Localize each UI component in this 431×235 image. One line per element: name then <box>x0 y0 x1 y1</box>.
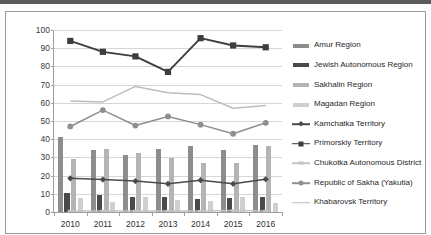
legend-item[interactable]: Khabarovsk Territory <box>292 193 426 213</box>
y-axis-tick-label: 70 <box>41 80 50 89</box>
data-line <box>70 86 265 108</box>
legend-swatch-icon <box>292 114 310 134</box>
plot-area <box>54 30 282 212</box>
y-axis-tick-label: 0 <box>45 208 50 217</box>
data-point-marker <box>67 124 73 130</box>
data-point-marker <box>230 131 236 137</box>
data-point-marker <box>132 53 138 59</box>
chart-legend: Amur RegionJewish Autonomous RegionSakha… <box>292 36 426 212</box>
y-axis-tick-label: 10 <box>41 190 50 199</box>
legend-item[interactable]: Primorskiy Territory <box>292 134 426 154</box>
data-point-marker <box>165 69 171 75</box>
data-point-marker <box>67 38 73 44</box>
legend-swatch-icon <box>292 75 310 95</box>
x-axis-tick-label: 2014 <box>191 220 210 229</box>
y-axis-tick-label: 50 <box>41 117 50 126</box>
y-axis-tick-mark <box>51 103 54 104</box>
data-point-marker <box>197 177 203 183</box>
data-point-marker <box>100 176 106 182</box>
legend-item[interactable]: Kamchatka Territory <box>292 114 426 134</box>
legend-swatch-icon <box>292 173 310 193</box>
legend-label: Primorskiy Territory <box>314 139 382 148</box>
data-point-marker <box>230 181 236 187</box>
y-axis-tick-label: 40 <box>41 135 50 144</box>
x-axis-tick-mark <box>152 212 153 216</box>
legend-swatch-icon <box>292 56 310 76</box>
y-axis-tick-label: 90 <box>41 44 50 53</box>
legend-swatch-icon <box>292 134 310 154</box>
x-axis-tick-mark <box>249 212 250 216</box>
y-axis-tick-label: 80 <box>41 62 50 71</box>
legend-swatch-icon <box>292 154 310 174</box>
data-point-marker <box>132 178 138 184</box>
x-axis-tick-mark <box>87 212 88 216</box>
data-point-marker <box>165 181 171 187</box>
y-axis-tick-mark <box>51 157 54 158</box>
y-axis-tick-mark <box>51 194 54 195</box>
legend-swatch-icon <box>292 36 310 56</box>
legend-item[interactable]: Republic of Sakha (Yakutia) <box>292 173 426 193</box>
y-axis-tick-mark <box>51 30 54 31</box>
y-axis-tick-mark <box>51 176 54 177</box>
data-point-marker <box>198 122 204 128</box>
data-point-marker <box>100 107 106 113</box>
legend-item[interactable]: Chukotka Autonomous District <box>292 154 426 174</box>
y-axis-tick-label: 60 <box>41 99 50 108</box>
legend-item[interactable]: Jewish Autonomous Region <box>292 56 426 76</box>
y-axis-tick-mark <box>51 66 54 67</box>
legend-item[interactable]: Magadan Region <box>292 95 426 115</box>
data-point-marker <box>165 114 171 120</box>
chart-frame: 0102030405060708090100 20102011201220132… <box>0 0 431 235</box>
legend-item[interactable]: Amur Region <box>292 36 426 56</box>
y-axis-tick-mark <box>51 85 54 86</box>
y-axis-tick-label: 20 <box>41 171 50 180</box>
legend-item[interactable]: Sakhalin Region <box>292 75 426 95</box>
x-axis-tick-label: 2013 <box>159 220 178 229</box>
x-axis-tick-label: 2016 <box>256 220 275 229</box>
legend-label: Jewish Autonomous Region <box>314 61 413 70</box>
x-axis-tick-mark <box>282 212 283 216</box>
x-axis-tick-mark <box>54 212 55 216</box>
y-axis-tick-mark <box>51 121 54 122</box>
legend-swatch-icon <box>292 193 310 213</box>
data-point-marker <box>133 123 139 129</box>
data-point-marker <box>263 120 269 126</box>
x-axis-tick-label: 2015 <box>224 220 243 229</box>
x-axis-tick-label: 2011 <box>94 220 112 229</box>
data-point-marker <box>100 49 106 55</box>
legend-label: Sakhalin Region <box>314 81 372 90</box>
x-axis-tick-label: 2010 <box>61 220 80 229</box>
legend-label: Kamchatka Territory <box>314 120 385 129</box>
legend-label: Republic of Sakha (Yakutia) <box>314 179 413 188</box>
y-axis-tick-label: 30 <box>41 153 50 162</box>
data-point-marker <box>197 35 203 41</box>
legend-label: Magadan Region <box>314 100 375 109</box>
x-axis-tick-mark <box>217 212 218 216</box>
data-point-marker <box>263 176 269 182</box>
chart-canvas: 0102030405060708090100 20102011201220132… <box>5 11 426 234</box>
y-axis-tick-label: 100 <box>36 26 50 35</box>
data-point-marker <box>67 175 73 181</box>
legend-label: Chukotka Autonomous District <box>314 159 421 168</box>
data-line <box>70 38 265 72</box>
legend-label: Khabarovsk Territory <box>314 198 387 207</box>
y-axis-tick-mark <box>51 139 54 140</box>
x-axis-tick-mark <box>119 212 120 216</box>
line-layer <box>54 30 282 212</box>
x-axis-tick-mark <box>184 212 185 216</box>
y-axis-tick-mark <box>51 48 54 49</box>
x-axis-tick-label: 2012 <box>126 220 145 229</box>
x-axis-labels: 2010201120122013201420152016 <box>54 212 282 232</box>
data-point-marker <box>263 44 269 50</box>
legend-swatch-icon <box>292 95 310 115</box>
data-point-marker <box>230 42 236 48</box>
legend-label: Amur Region <box>314 41 361 50</box>
